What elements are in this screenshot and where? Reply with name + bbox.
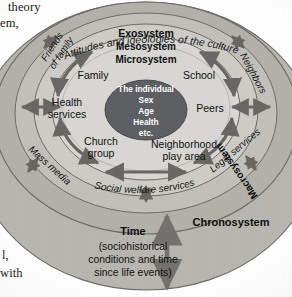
label-neighborhood-line2: play area [162, 150, 205, 162]
margin-text-line-3: l, [2, 248, 9, 263]
label-health-services-line2: services [48, 108, 87, 120]
center-line-4: Health [133, 117, 158, 127]
label-health-services-line1: Health [52, 96, 83, 108]
label-chronosystem: Chronosystem [192, 216, 269, 228]
label-church-group-line1: Church [84, 135, 118, 147]
label-family: Family [78, 69, 110, 81]
margin-text-line-1: theory [8, 0, 41, 15]
center-line-2: Sex [139, 95, 154, 105]
label-time-desc-line2: conditions and time [88, 254, 178, 265]
label-peers: Peers [196, 102, 223, 114]
label-time-desc-line1: (sociohistorical [99, 241, 168, 252]
label-church-group-line2: group [88, 147, 115, 159]
center-line-3: Age [138, 106, 154, 116]
ecological-systems-diagram: The individual Sex Age Health etc. Exosy… [0, 0, 292, 297]
center-line-5: etc. [139, 128, 153, 138]
margin-text-line-2: em, [0, 16, 19, 31]
label-microsystem: Microsystem [115, 54, 176, 65]
label-time: Time [120, 225, 145, 237]
label-neighborhood-line1: Neighborhood [151, 138, 217, 150]
label-school: School [183, 69, 215, 81]
margin-text-line-4: with [0, 266, 23, 281]
label-time-desc-line3: since life events) [94, 267, 171, 278]
center-line-1: The individual [118, 84, 174, 94]
